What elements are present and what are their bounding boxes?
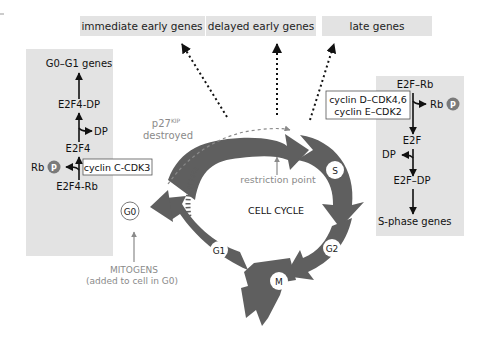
box-delayed-early-genes: delayed early genes xyxy=(206,16,316,36)
mitogens-label: MITOGENS xyxy=(110,265,158,275)
g0-g1-genes-label: G0–G1 genes xyxy=(46,58,113,69)
dotted-arrows xyxy=(182,44,334,120)
dp-label: DP xyxy=(94,126,108,137)
p27-destroyed-label: destroyed xyxy=(143,130,193,141)
box-late-genes: late genes xyxy=(322,16,432,36)
g1-phase-arrow xyxy=(166,196,248,270)
p27-label: p27KIP xyxy=(152,117,181,129)
mitogens-sublabel: (added to cell in G0) xyxy=(86,276,178,286)
cell-cycle-title: CELL CYCLE xyxy=(248,205,304,216)
e2f-dp-label: E2F–DP xyxy=(393,175,430,186)
immediate-early-genes-label: immediate early genes xyxy=(81,20,202,32)
s-phase-genes-label: S-phase genes xyxy=(378,216,452,227)
e2f4-rb-label: E2F4-Rb xyxy=(56,181,98,192)
phosphate-label-right: P xyxy=(450,101,456,110)
cyclin-d-cdk46-label: cyclin D–CDK4,6 xyxy=(329,94,407,105)
e2f4-dp-label: E2F4-DP xyxy=(58,99,100,110)
delayed-early-genes-label: delayed early genes xyxy=(208,20,315,32)
rb-label: Rb xyxy=(31,162,44,173)
g1-label: G1 xyxy=(213,246,226,256)
e2f-rb-label: E2F–Rb xyxy=(397,79,434,90)
cyclin-c-cdk3-label: cyclin C-CDK3 xyxy=(84,162,151,173)
p27-sup: KIP xyxy=(171,117,181,124)
m-label: M xyxy=(275,277,283,287)
e2f4-label: E2F4 xyxy=(66,143,91,154)
cell-cycle-diagram: immediate early genes delayed early gene… xyxy=(0,0,483,342)
to-g0-arrowhead xyxy=(150,190,173,222)
late-genes-label: late genes xyxy=(350,20,405,32)
e2f-label: E2F xyxy=(403,135,422,146)
phosphate-label: P xyxy=(51,164,57,173)
cyclin-e-cdk2-label: cyclin E–CDK2 xyxy=(334,106,401,117)
box-immediate-early-genes: immediate early genes xyxy=(80,16,205,36)
s-label: S xyxy=(332,166,338,176)
p27-text: p27 xyxy=(152,118,171,129)
g0-label: G0 xyxy=(124,207,137,217)
g1-to-s-arrow xyxy=(168,134,309,200)
g2-phase-arrow xyxy=(285,218,352,280)
rb-label-right: Rb xyxy=(430,99,443,110)
g2-label: G2 xyxy=(326,244,339,254)
left-panel: G0–G1 genes E2F4-DP DP E2F4 Rb P cyclin … xyxy=(26,49,152,256)
dp-label-right: DP xyxy=(382,149,396,160)
m-phase-arrow xyxy=(241,258,296,326)
restriction-point-label: restriction point xyxy=(240,174,316,185)
